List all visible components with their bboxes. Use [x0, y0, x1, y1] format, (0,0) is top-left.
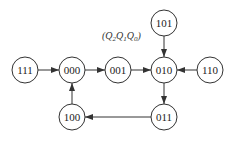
svg-text:011: 011 [156, 111, 172, 123]
state-node-100: 100 [59, 104, 85, 130]
state-node-010: 010 [151, 57, 177, 83]
svg-text:001: 001 [110, 64, 127, 76]
svg-text:010: 010 [156, 64, 173, 76]
svg-text:110: 110 [202, 64, 219, 76]
svg-text:111: 111 [17, 64, 33, 76]
svg-text:101: 101 [156, 17, 173, 29]
state-node-111: 111 [12, 57, 38, 83]
state-node-101: 101 [151, 10, 177, 36]
state-node-001: 001 [105, 57, 131, 83]
svg-text:000: 000 [64, 64, 81, 76]
state-node-110: 110 [197, 57, 223, 83]
state-node-000: 000 [59, 57, 85, 83]
state-node-011: 011 [151, 104, 177, 130]
state-diagram: (Q2Q1Q0) 111 000 001 010 110 101 011 100 [0, 0, 233, 143]
svg-text:100: 100 [64, 111, 81, 123]
state-variables-label: (Q2Q1Q0) [102, 30, 142, 43]
